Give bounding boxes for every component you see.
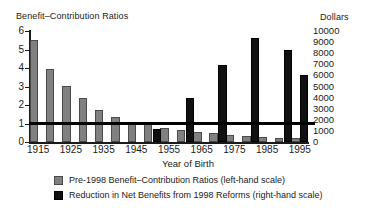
y-axis-right-tick-label: 4000 bbox=[313, 93, 334, 103]
y-axis-left-tick bbox=[25, 142, 29, 143]
y-axis-left-tick bbox=[25, 124, 29, 125]
plot-area bbox=[30, 31, 308, 142]
y-axis-right-tick-label: 7000 bbox=[313, 60, 334, 70]
x-axis-tick-label: 1935 bbox=[92, 145, 114, 155]
bar bbox=[128, 123, 137, 142]
x-axis-tick-label: 1995 bbox=[289, 145, 311, 155]
x-axis-tick-label: 1955 bbox=[158, 145, 180, 155]
bar bbox=[291, 138, 300, 142]
x-axis-tick-label: 1985 bbox=[256, 145, 278, 155]
y-axis-right-tick-label: 6000 bbox=[313, 71, 334, 81]
y-axis-left-tick-label: 6 bbox=[18, 26, 24, 36]
bar bbox=[275, 138, 284, 142]
bar bbox=[153, 129, 162, 142]
chart-container: Benefit–Contribution Ratios Dollars 6543… bbox=[0, 0, 376, 214]
x-axis-tick-label: 1915 bbox=[27, 145, 49, 155]
y-axis-left-tick-label: 5 bbox=[18, 45, 24, 55]
y-axis-left-labels: 6543210 bbox=[2, 0, 24, 214]
y-axis-right-tick-label: 1000 bbox=[313, 126, 334, 136]
bar bbox=[242, 136, 251, 142]
y-axis-right-tick-label: 5000 bbox=[313, 82, 334, 92]
bar bbox=[251, 38, 260, 142]
x-axis-tick-label: 1945 bbox=[125, 145, 147, 155]
y-axis-right-tick-label: 9000 bbox=[313, 37, 334, 47]
left-axis-title: Benefit–Contribution Ratios bbox=[16, 11, 128, 21]
y-axis-right-tick-label: 3000 bbox=[313, 104, 334, 114]
legend-item: Reduction in Net Benefits from 1998 Refo… bbox=[54, 189, 354, 201]
bar bbox=[160, 128, 169, 142]
y-axis-right-tick-label: 8000 bbox=[313, 48, 334, 58]
legend-swatch-black bbox=[54, 191, 63, 200]
bar bbox=[186, 98, 195, 142]
legend-item: Pre-1998 Benefit–Contribution Ratios (le… bbox=[54, 174, 354, 186]
reference-line bbox=[29, 122, 315, 125]
y-axis-left-tick bbox=[25, 50, 29, 51]
y-axis-right-tick-label: 10000 bbox=[313, 26, 339, 36]
y-axis-left-tick-label: 3 bbox=[18, 82, 24, 92]
bar bbox=[284, 50, 293, 142]
x-axis-tick-label: 1975 bbox=[223, 145, 245, 155]
bar bbox=[111, 117, 120, 142]
y-axis-left-tick-label: 4 bbox=[18, 63, 24, 73]
x-axis-title: Year of Birth bbox=[0, 158, 376, 169]
bar bbox=[95, 110, 104, 142]
x-axis-labels: 191519251935194519551965197519851995 bbox=[0, 145, 376, 159]
y-axis-right-tick-label: 2000 bbox=[313, 115, 334, 125]
y-axis-left-tick bbox=[25, 87, 29, 88]
bar bbox=[226, 135, 235, 142]
y-axis-left-tick bbox=[25, 105, 29, 106]
bar bbox=[30, 40, 39, 142]
bar bbox=[209, 133, 218, 142]
y-axis-left-tick bbox=[25, 31, 29, 32]
legend-swatch-gray bbox=[54, 176, 63, 185]
y-axis-left-tick bbox=[25, 68, 29, 69]
bar bbox=[62, 86, 71, 142]
x-axis-tick-label: 1965 bbox=[191, 145, 213, 155]
bar bbox=[218, 65, 227, 142]
bar bbox=[79, 98, 88, 142]
bar bbox=[258, 137, 267, 142]
y-axis-left-tick-label: 2 bbox=[18, 100, 24, 110]
bar bbox=[177, 130, 186, 142]
x-axis-tick-label: 1925 bbox=[60, 145, 82, 155]
y-axis-left-tick-label: 1 bbox=[18, 119, 24, 129]
bar bbox=[144, 124, 153, 142]
bar bbox=[193, 132, 202, 142]
bar bbox=[300, 75, 309, 142]
chart-legend: Pre-1998 Benefit–Contribution Ratios (le… bbox=[54, 174, 354, 204]
legend-label: Reduction in Net Benefits from 1998 Refo… bbox=[69, 190, 323, 200]
legend-label: Pre-1998 Benefit–Contribution Ratios (le… bbox=[69, 175, 285, 185]
bar bbox=[46, 69, 55, 142]
